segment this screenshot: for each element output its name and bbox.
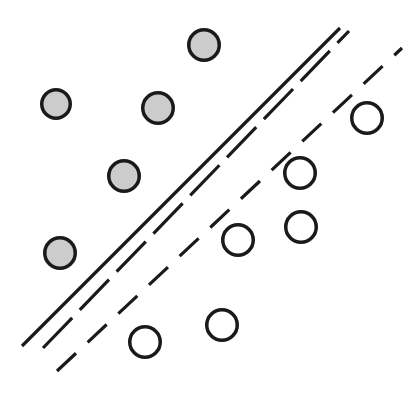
data-point-class-open-o1 — [352, 103, 383, 134]
data-point-class-open-o5 — [207, 310, 238, 341]
svm-margin-figure — [0, 0, 415, 395]
data-point-class-filled-f3 — [143, 93, 174, 124]
data-point-class-open-o3 — [286, 212, 317, 243]
data-point-class-open-o4 — [223, 225, 254, 256]
data-point-class-filled-f5 — [45, 238, 76, 269]
data-point-class-open-o2 — [285, 158, 316, 189]
scatter-plot-canvas — [0, 0, 415, 395]
data-point-class-open-o6 — [130, 327, 161, 358]
data-point-class-filled-f4 — [109, 161, 140, 192]
data-point-class-filled-f1 — [189, 30, 220, 61]
data-point-class-filled-f2 — [42, 90, 71, 119]
